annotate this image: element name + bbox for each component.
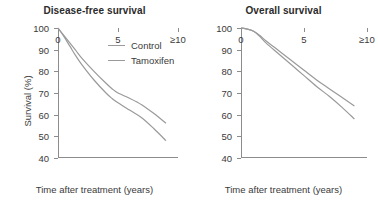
y-tick-label: 60: [38, 109, 49, 120]
x-tick: ≥10: [178, 28, 179, 32]
x-tick: ≥10: [367, 28, 368, 32]
y-axis-title: Survival (%): [22, 75, 33, 126]
legend-line-icon: [108, 45, 125, 46]
legend-label: Control: [131, 40, 162, 51]
survival-curves: [241, 28, 367, 158]
y-tick-label: 50: [221, 131, 232, 142]
y-tick-label: 40: [38, 153, 49, 164]
y-tick-label: 50: [38, 131, 49, 142]
y-tick-label: 90: [38, 44, 49, 55]
panel-title: Overall survival: [189, 5, 378, 16]
curve-control: [241, 28, 354, 106]
y-tick-label: 60: [221, 109, 232, 120]
x-axis-title: Time after treatment (years): [0, 184, 189, 195]
y-tick-label: 80: [38, 66, 49, 77]
y-tick-label: 100: [216, 23, 232, 34]
plot-area: 100 90 80 70 60 50 40 0 5 ≥10: [241, 28, 367, 158]
panel-title: Disease-free survival: [0, 5, 189, 16]
y-tick-label: 90: [221, 44, 232, 55]
y-tick-label: 70: [221, 88, 232, 99]
legend-item-control: Control: [108, 38, 174, 53]
y-tick-label: 40: [221, 153, 232, 164]
legend-line-icon: [108, 60, 125, 61]
legend: Control Tamoxifen: [108, 38, 174, 68]
legend-item-tamoxifen: Tamoxifen: [108, 53, 174, 68]
x-axis-title: Time after treatment (years): [189, 184, 378, 195]
y-tick: 40: [54, 158, 58, 159]
y-tick-label: 70: [38, 88, 49, 99]
y-tick-label: 80: [221, 66, 232, 77]
y-tick: 40: [237, 158, 241, 159]
legend-label: Tamoxifen: [131, 55, 174, 66]
curve-tamoxifen: [241, 28, 354, 119]
survival-curves-figure: Disease-free survival Survival (%) 100 9…: [0, 0, 378, 201]
y-tick-label: 100: [33, 23, 49, 34]
panel-overall-survival: Overall survival 100 90 80 70 60 50 40 0…: [189, 0, 378, 201]
panel-disease-free-survival: Disease-free survival Survival (%) 100 9…: [0, 0, 189, 201]
